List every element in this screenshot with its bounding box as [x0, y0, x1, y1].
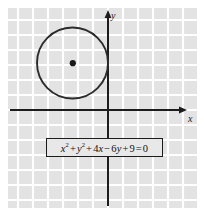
circle-graph-figure: y x x2+y2+4x−6y+9=0	[0, 0, 205, 217]
operator-equals: =	[135, 143, 143, 154]
operator-plus-1: +	[69, 143, 77, 154]
equation-text: x2+y2+4x−6y+9=0	[61, 141, 148, 154]
term-constant: 9	[129, 143, 134, 154]
equation-box: x2+y2+4x−6y+9=0	[46, 138, 163, 157]
axes-and-shapes-layer	[0, 0, 205, 217]
operator-plus-2: +	[85, 143, 93, 154]
x-axis-label: x	[188, 114, 192, 124]
term-right-hand-side: 0	[143, 143, 148, 154]
y-axis-label: y	[111, 11, 115, 21]
right-arrow-icon	[179, 107, 187, 114]
circle-center-point	[70, 60, 76, 66]
